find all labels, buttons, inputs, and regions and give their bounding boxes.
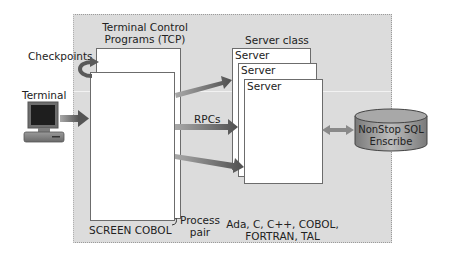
terminal-arrow [60, 110, 89, 127]
languages-line1: Ada, C, C++, COBOL, [225, 218, 340, 230]
rpc-arrow-3 [175, 154, 244, 173]
screen-cobol-label: SCREEN COBOL [89, 224, 171, 236]
database-label-line1: NonStop SQL [355, 124, 427, 136]
curved-arrow-icon [80, 57, 99, 76]
terminal-computer-icon [24, 102, 64, 142]
double-arrow [322, 125, 354, 135]
database-label-line2: Enscribe [355, 136, 427, 148]
process-pair-brace [172, 218, 177, 225]
process-pair-line1: Process [178, 214, 222, 226]
rpc-arrow-2 [175, 119, 238, 135]
rpc-arrow-1 [175, 76, 232, 98]
process-pair-line2: pair [178, 226, 222, 238]
process-pair-label: Process pair [178, 214, 222, 238]
languages-line2: FORTRAN, TAL [225, 230, 340, 242]
languages-label: Ada, C, C++, COBOL, FORTRAN, TAL [225, 218, 340, 242]
database-label: NonStop SQL Enscribe [355, 124, 427, 148]
